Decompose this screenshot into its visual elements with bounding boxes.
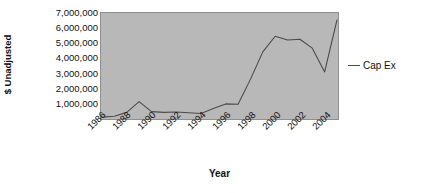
series-line-cap-ex (102, 20, 337, 117)
y-axis-title: $ Unadjusted (0, 0, 16, 128)
y-axis-title-text: $ Unadjusted (3, 34, 14, 94)
y-axis-tick-label: 4,000,000 (18, 53, 98, 63)
plot-svg (101, 13, 338, 119)
chart-legend: Cap Ex (348, 60, 396, 71)
x-axis-title: Year (100, 168, 339, 179)
y-axis-tick-label: 2,000,000 (18, 84, 98, 94)
y-axis-tick-label: 1,000,000 (18, 99, 98, 109)
legend-label-cap-ex: Cap Ex (363, 60, 396, 71)
y-axis-tick-label: 5,000,000 (18, 38, 98, 48)
y-axis-tick-label: 7,000,000 (18, 8, 98, 18)
plot-area (100, 12, 339, 120)
y-axis-tick-labels: 7,000,0006,000,0005,000,0004,000,0003,00… (18, 8, 98, 124)
line-chart: $ Unadjusted 7,000,0006,000,0005,000,000… (0, 0, 423, 193)
legend-line-swatch-cap-ex (348, 65, 360, 66)
y-axis-tick-label: 3,000,000 (18, 69, 98, 79)
y-axis-tick-label: 6,000,000 (18, 23, 98, 33)
x-axis-tick-labels: 1986198819901992199419961998200020022004 (100, 122, 350, 164)
